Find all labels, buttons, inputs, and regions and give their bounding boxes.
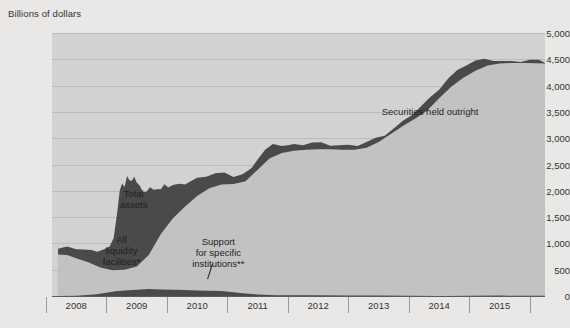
x-axis-tick-label: 2010 [187, 300, 208, 311]
x-axis-tick-label: 2015 [489, 300, 510, 311]
annotation-all-liquidity-facilities: All liquidity facilities* [103, 233, 141, 266]
x-axis-tick-label: 2014 [429, 300, 450, 311]
annotation-total-assets: Total assets [120, 188, 147, 210]
y-axis-title: Billions of dollars [8, 8, 81, 19]
annotation-support-specific-institutions: Support for specific institutions** [192, 236, 244, 269]
x-axis-tick-mark [409, 297, 410, 313]
x-axis-tick-mark [288, 297, 289, 313]
annotation-securities-held-outright: Securities held outright [382, 105, 479, 116]
x-axis-tick-mark [46, 297, 47, 313]
x-axis-line [52, 296, 545, 297]
x-axis-tick-mark [167, 297, 168, 313]
x-axis-tick-label: 2013 [368, 300, 389, 311]
x-axis-tick-label: 2011 [247, 300, 267, 311]
x-axis-tick-mark [227, 297, 228, 313]
x-axis-tick-mark [530, 297, 531, 313]
x-axis-tick-label: 2012 [308, 300, 329, 311]
x-axis-tick-mark [469, 297, 470, 313]
chart-figure: Billions of dollars 05001,0001,5002,0002… [0, 0, 570, 328]
x-axis-tick-mark [348, 297, 349, 313]
x-axis-tick-label: 2008 [66, 300, 87, 311]
x-axis-tick-label: 2009 [126, 300, 147, 311]
x-axis-tick-mark [106, 297, 107, 313]
